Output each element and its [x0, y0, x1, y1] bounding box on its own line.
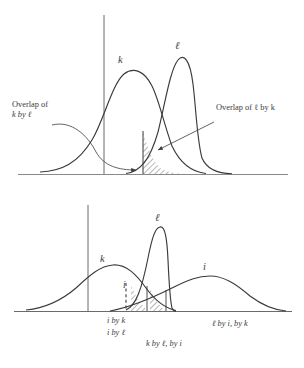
top-panel-curve-l [126, 57, 232, 173]
top-panel [18, 15, 288, 175]
bottom-overlap-hatched-region-b [150, 288, 165, 311]
callout-overlap-k-by-l: Overlap of k by ℓ [12, 100, 48, 120]
footnote-l-by-i-by-k: ℓ by i, by k [212, 319, 248, 329]
bottom-overlap-hatched-region-a [131, 285, 147, 311]
callout-overlap-l-by-k: Overlap of ℓ by k [216, 103, 275, 113]
top-panel-curve-k [40, 70, 206, 173]
bottom-curve-label-l: ℓ [155, 212, 159, 224]
top-curve-label-k: k [118, 54, 123, 66]
callout-overlap-k-by-l-line2: k by ℓ [12, 110, 48, 120]
top-curve-label-l: ℓ [175, 40, 179, 52]
bottom-panel [14, 205, 292, 312]
overlap-figure: Overlap of k by ℓ Overlap of ℓ by k k ℓ … [0, 0, 304, 368]
footnote-k-by-l-by-i: k by ℓ, by i [146, 339, 182, 349]
figure-canvas [0, 0, 304, 368]
bottom-curve-label-k: k [100, 253, 105, 265]
callout-overlap-k-by-l-line1: Overlap of [12, 100, 48, 110]
callout-overlap-l-by-k-line1: Overlap of ℓ by k [216, 103, 275, 113]
bottom-curve-label-i-dashed: i [123, 280, 126, 291]
top-panel-leader-right [158, 122, 214, 150]
footnote-i-by-l: i by ℓ [107, 328, 125, 338]
top-panel-leader-left [52, 124, 136, 170]
footnote-i-by-k: i by k [107, 316, 125, 326]
bottom-curve-label-i: i [203, 261, 206, 273]
